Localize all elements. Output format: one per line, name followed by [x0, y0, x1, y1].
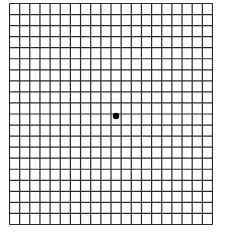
center-fixation-dot [113, 113, 119, 119]
grid-lines [9, 3, 213, 225]
amsler-grid [9, 3, 213, 225]
